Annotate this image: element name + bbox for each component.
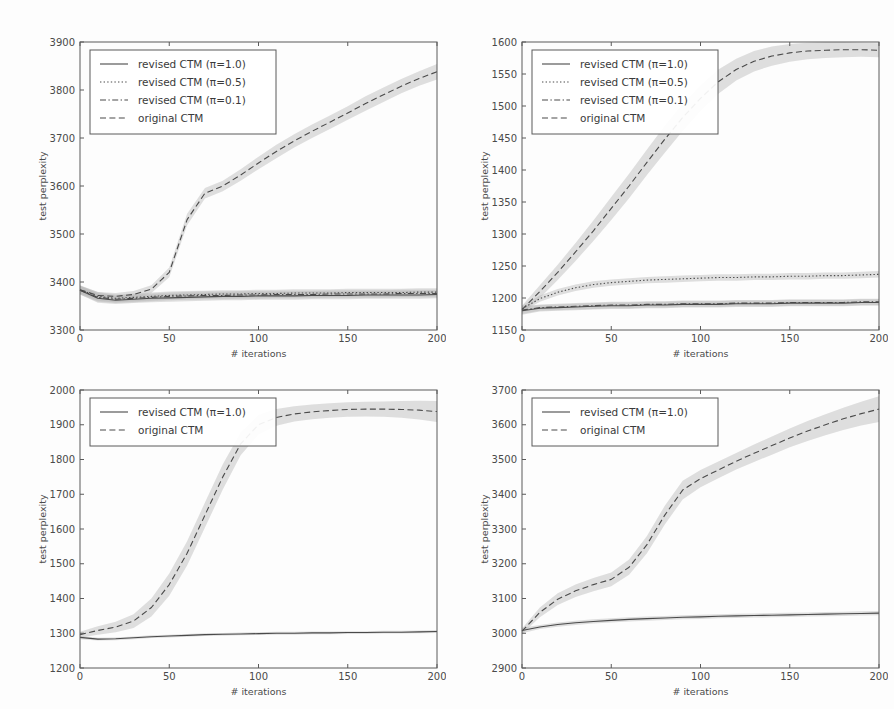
x-tick-label: 200 [427,671,446,682]
x-tick-label: 100 [691,333,710,344]
x-axis-label: # iterations [672,348,728,359]
y-tick-label: 3500 [492,454,517,465]
y-tick-label: 3100 [492,593,517,604]
y-tick-label: 1250 [492,261,517,272]
legend-label-0: revised CTM (π=1.0) [138,406,246,418]
legend-label-1: original CTM [138,424,203,436]
y-tick-label: 3400 [50,277,75,288]
x-tick-label: 0 [77,333,83,344]
panel-bottom-left: 1200130014001500160017001800190020000501… [36,378,446,708]
y-tick-label: 1300 [50,628,75,639]
legend-label-2: revised CTM (π=0.1) [138,94,246,106]
legend-label-0: revised CTM (π=1.0) [138,58,246,70]
x-tick-label: 0 [519,333,525,344]
y-tick-label: 1900 [50,419,75,430]
x-tick-label: 0 [77,671,83,682]
legend-label-0: revised CTM (π=1.0) [580,58,688,70]
legend-label-1: original CTM [580,424,645,436]
y-tick-label: 3000 [492,628,517,639]
y-tick-label: 1150 [492,325,517,336]
legend-label-2: revised CTM (π=0.1) [580,94,688,106]
y-axis: 290030003100320033003400350036003700 [492,385,526,674]
y-tick-label: 1800 [50,454,75,465]
y-axis: 1150120012501300135014001450150015501600 [492,37,526,336]
x-tick-label: 0 [519,671,525,682]
y-axis-label: test perplexity [37,494,48,563]
x-tick-label: 100 [249,671,268,682]
y-tick-label: 3300 [492,524,517,535]
x-tick-label: 150 [780,333,799,344]
y-tick-label: 1350 [492,197,517,208]
y-tick-label: 1600 [50,524,75,535]
y-tick-label: 1550 [492,69,517,80]
x-tick-label: 150 [780,671,799,682]
y-tick-label: 1450 [492,133,517,144]
y-tick-label: 1400 [492,165,517,176]
y-tick-label: 1700 [50,489,75,500]
y-axis-label: test perplexity [479,494,490,563]
legend: revised CTM (π=1.0)revised CTM (π=0.5)re… [90,50,276,134]
y-tick-label: 3600 [492,419,517,430]
x-tick-label: 150 [338,671,357,682]
y-tick-label: 2900 [492,663,517,674]
y-tick-label: 3800 [50,85,75,96]
y-tick-label: 3400 [492,489,517,500]
x-tick-label: 50 [163,333,176,344]
y-tick-label: 1500 [50,558,75,569]
x-tick-label: 100 [249,333,268,344]
y-tick-label: 1400 [50,593,75,604]
legend: revised CTM (π=1.0)original CTM [532,398,718,446]
y-axis-label: test perplexity [37,151,48,220]
x-axis-label: # iterations [230,348,286,359]
y-axis: 120013001400150016001700180019002000 [50,385,84,674]
y-tick-label: 1200 [492,293,517,304]
x-tick-label: 150 [338,333,357,344]
y-tick-label: 3200 [492,558,517,569]
y-tick-label: 3600 [50,181,75,192]
y-tick-label: 3700 [492,385,517,396]
legend: revised CTM (π=1.0)original CTM [90,398,276,446]
y-tick-label: 1500 [492,101,517,112]
x-tick-label: 200 [427,333,446,344]
legend-label-1: revised CTM (π=0.5) [138,76,246,88]
legend-label-1: revised CTM (π=0.5) [580,76,688,88]
figure-container: 3300340035003600370038003900050100150200… [0,0,894,709]
x-tick-label: 200 [869,671,888,682]
x-tick-label: 50 [605,333,618,344]
x-tick-label: 100 [691,671,710,682]
y-axis: 3300340035003600370038003900 [50,37,84,336]
x-tick-label: 50 [163,671,176,682]
legend-label-0: revised CTM (π=1.0) [580,406,688,418]
x-tick-label: 200 [869,333,888,344]
x-tick-label: 50 [605,671,618,682]
y-tick-label: 1200 [50,663,75,674]
y-tick-label: 3300 [50,325,75,336]
y-tick-label: 3700 [50,133,75,144]
legend-label-3: original CTM [580,112,645,124]
legend: revised CTM (π=1.0)revised CTM (π=0.5)re… [532,50,718,134]
y-tick-label: 3900 [50,37,75,48]
x-axis-label: # iterations [230,686,286,697]
y-tick-label: 1600 [492,37,517,48]
legend-label-3: original CTM [138,112,203,124]
y-tick-label: 1300 [492,229,517,240]
y-axis-label: test perplexity [479,151,490,220]
panel-top-left: 3300340035003600370038003900050100150200… [36,30,446,370]
x-axis-label: # iterations [672,686,728,697]
y-tick-label: 2000 [50,385,75,396]
panel-bottom-right: 2900300031003200330034003500360037000501… [478,378,888,708]
y-tick-label: 3500 [50,229,75,240]
panel-top-right: 1150120012501300135014001450150015501600… [478,30,888,370]
